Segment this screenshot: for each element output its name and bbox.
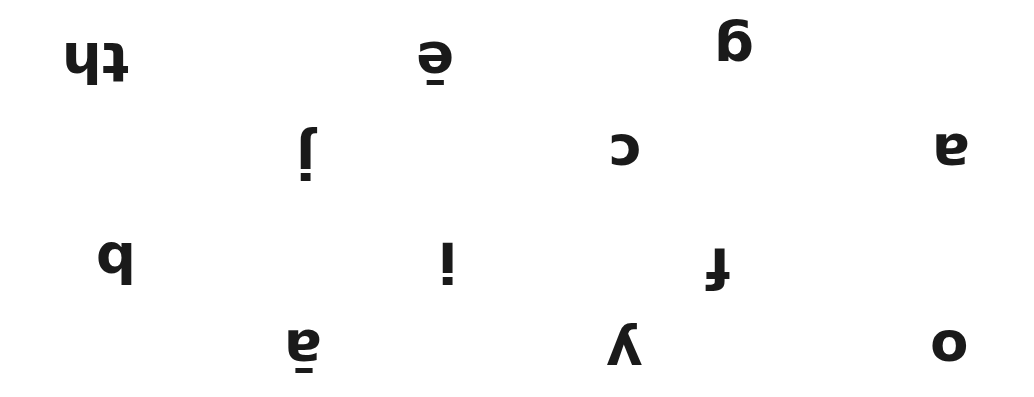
letter-e-long: ē: [416, 34, 454, 90]
letter-th: th: [62, 34, 129, 90]
letter-j: j: [296, 130, 315, 186]
letter-y: y: [606, 326, 643, 382]
letter-a-long: ā: [284, 322, 322, 378]
letter-f: f: [706, 240, 730, 296]
letter-o: o: [930, 322, 968, 378]
letter-g: g: [714, 22, 754, 78]
letter-c: c: [608, 126, 641, 182]
letter-i: i: [438, 234, 457, 290]
letter-b: b: [96, 234, 136, 290]
letter-a: a: [932, 126, 970, 182]
